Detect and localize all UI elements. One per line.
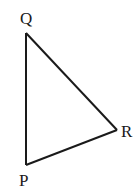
vertex-label-p: P: [19, 171, 28, 190]
triangle-diagram: Q R P: [0, 0, 134, 191]
edge-qr: [26, 33, 117, 130]
vertex-label-q: Q: [20, 9, 32, 28]
edge-rp: [26, 130, 117, 165]
vertex-label-r: R: [121, 122, 133, 141]
